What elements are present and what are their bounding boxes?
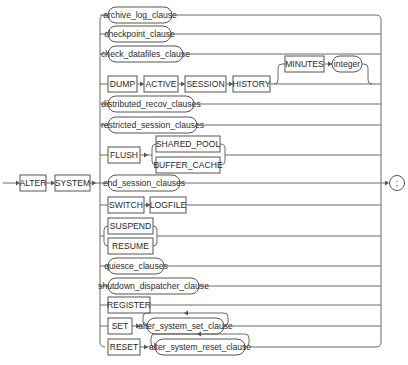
check-datafiles-clause-label: check_datafiles_clause [101, 49, 190, 59]
keyword-dump: DUMP [108, 76, 137, 92]
flush-label: FLUSH [110, 150, 138, 160]
switch-label: SWITCH [109, 200, 143, 210]
keyword-alter: ALTER [19, 175, 46, 191]
arrow-icon [92, 181, 96, 186]
keyword-minutes: MINUTES [285, 56, 324, 72]
keyword-active: ACTIVE [144, 76, 178, 92]
nonterminal-end-session-clauses: end_session_clauses [103, 175, 185, 191]
nonterminal-distributed-recov-clauses: distributed_recov_clauses [101, 96, 200, 112]
keyword-system: SYSTEM [55, 175, 90, 191]
shutdown-dispatcher-clause-label: shutdown_dispatcher_clause [98, 281, 209, 291]
arrow-icon [144, 153, 148, 158]
keyword-switch: SWITCH [108, 197, 144, 213]
history-label: HISTORY [233, 79, 271, 89]
optional-branch [274, 64, 285, 84]
end-session-clauses-label: end_session_clauses [103, 178, 185, 188]
nonterminal-quiesce-clauses: quiesce_clauses [104, 258, 168, 274]
alter-system-set-clause-label: alter_system_set_clause [138, 321, 233, 331]
choice-left [104, 226, 108, 246]
distributed-recov-clauses-label: distributed_recov_clauses [101, 99, 200, 109]
resume-label: RESUME [112, 241, 149, 251]
keyword-system-label: SYSTEM [55, 178, 90, 188]
keyword-history: HISTORY [233, 76, 271, 92]
nonterminal-checkpoint-clause: checkpoint_clause [104, 26, 175, 42]
keyword-session: SESSION [185, 76, 226, 92]
session-label: SESSION [186, 79, 224, 89]
keyword-reset: RESET [108, 339, 140, 355]
terminator-semicolon: ; [390, 176, 405, 191]
syntax-diagram: ALTER SYSTEM ; archive_log_clause checkp… [0, 0, 408, 365]
nonterminal-shutdown-dispatcher-clause: shutdown_dispatcher_clause [98, 278, 209, 294]
optional-branch-end [362, 64, 372, 84]
quiesce-clauses-label: quiesce_clauses [104, 261, 168, 271]
keyword-flush: FLUSH [108, 147, 140, 163]
keyword-set: SET [108, 318, 132, 334]
keyword-alter-label: ALTER [19, 178, 46, 188]
keyword-suspend: SUSPEND [108, 218, 153, 234]
arrow-icon [181, 82, 185, 87]
alter-system-reset-clause-label: alter_system_reset_clause [149, 342, 251, 352]
keyword-logfile: LOGFILE [150, 197, 187, 213]
semicolon-label: ; [396, 178, 398, 188]
nonterminal-restricted-session-clauses: restricted_session_clauses [101, 117, 204, 133]
buffer-cache-label: BUFFER_CACHE [153, 160, 223, 170]
active-label: ACTIVE [145, 79, 176, 89]
nonterminal-alter-system-set-clause: alter_system_set_clause [138, 318, 233, 334]
checkpoint-clause-label: checkpoint_clause [104, 29, 175, 39]
arrow-icon [328, 62, 332, 67]
keyword-buffer-cache: BUFFER_CACHE [153, 157, 223, 173]
nonterminal-check-datafiles-clause: check_datafiles_clause [101, 46, 190, 62]
right-rail [376, 15, 381, 347]
choice-right [153, 226, 157, 246]
archive-log-clause-label: archive_log_clause [103, 10, 177, 20]
restricted-session-clauses-label: restricted_session_clauses [101, 120, 204, 130]
keyword-shared-pool: SHARED_POOL [156, 136, 221, 152]
logfile-label: LOGFILE [150, 200, 187, 210]
shared-pool-label: SHARED_POOL [156, 139, 221, 149]
nonterminal-archive-log-clause: archive_log_clause [103, 7, 177, 23]
arrow-icon [184, 311, 188, 316]
nonterminal-alter-system-reset-clause: alter_system_reset_clause [149, 339, 251, 355]
keyword-resume: RESUME [108, 238, 153, 254]
suspend-label: SUSPEND [110, 221, 152, 231]
integer-label: integer [334, 59, 360, 69]
set-label: SET [112, 321, 129, 331]
arrow-icon [385, 181, 389, 186]
keyword-register: REGISTER [107, 297, 151, 313]
dump-label: DUMP [110, 79, 136, 89]
register-label: REGISTER [107, 300, 151, 310]
arrow-icon [140, 82, 144, 87]
minutes-label: MINUTES [285, 59, 324, 69]
arrow-icon [144, 345, 148, 350]
reset-label: RESET [110, 342, 139, 352]
nonterminal-integer: integer [332, 56, 362, 72]
